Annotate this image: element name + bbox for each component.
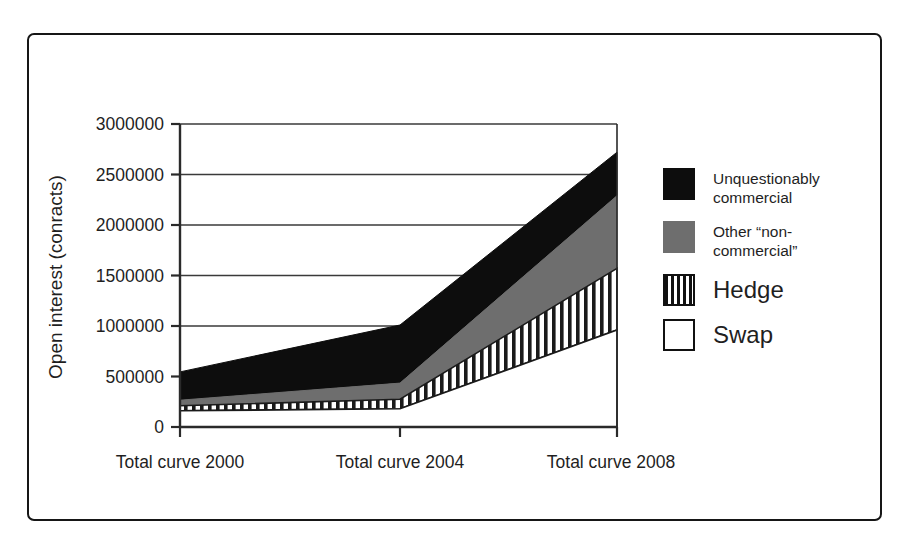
legend-label-hedge: Hedge — [713, 277, 784, 303]
legend-label-swap: Swap — [713, 322, 773, 348]
x-tick-label-2000: Total curve 2000 — [116, 452, 245, 472]
y-tick-label-1500000: 1500000 — [96, 266, 164, 286]
legend-label-unquestionably-commercial: Unquestionably commercial — [713, 168, 868, 207]
chart-figure: 0 500000 1000000 1500000 2000000 2500000… — [0, 0, 908, 550]
legend-label-other-non-commercial: Other “non-commercial” — [713, 221, 868, 260]
y-tick-label-500000: 500000 — [106, 367, 165, 387]
x-tick-label-2008: Total curve 2008 — [547, 452, 675, 472]
outlined-white-swatch-icon — [663, 319, 695, 351]
vertical-stripe-swatch-icon — [663, 274, 695, 306]
y-tick-label-0: 0 — [154, 417, 164, 437]
legend-item-other-non-commercial: Other “non-commercial” — [663, 221, 868, 260]
y-axis-title: Open interest (conracts) — [45, 175, 66, 379]
chart-legend: Unquestionably commercial Other “non-com… — [663, 168, 868, 364]
y-tick-label-1000000: 1000000 — [96, 316, 164, 336]
y-tick-label-3000000: 3000000 — [96, 114, 164, 134]
legend-item-swap: Swap — [663, 319, 868, 351]
legend-item-unquestionably-commercial: Unquestionably commercial — [663, 168, 868, 207]
x-tick-label-2004: Total curve 2004 — [336, 452, 465, 472]
y-tick-label-2000000: 2000000 — [96, 215, 164, 235]
solid-black-swatch-icon — [663, 168, 695, 200]
solid-gray-swatch-icon — [663, 221, 695, 253]
y-tick-marks — [171, 124, 180, 427]
legend-item-hedge: Hedge — [663, 274, 868, 306]
y-tick-label-2500000: 2500000 — [96, 165, 164, 185]
x-tick-marks — [180, 427, 617, 437]
